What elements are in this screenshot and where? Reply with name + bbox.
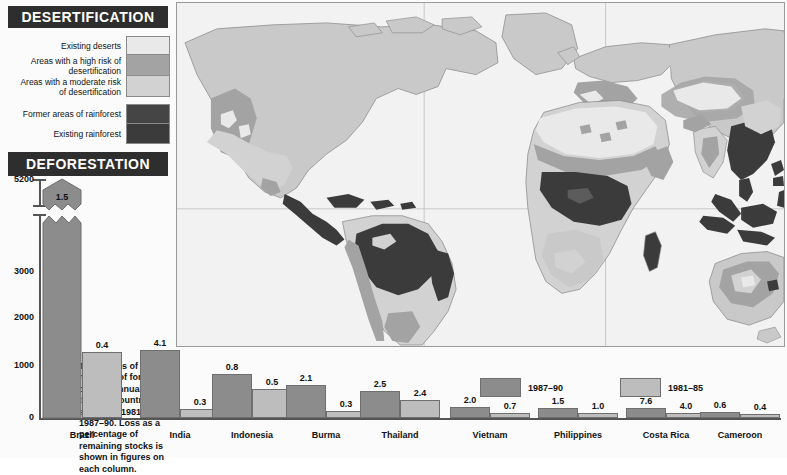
bar-philippines-1987-90 [538,408,578,418]
cat-label-cameroon: Cameroon [700,430,780,440]
legend-swatch-high-risk [126,55,170,76]
y-axis-upper [39,180,41,206]
bar-label-burma-1987-90: 2.1 [286,373,326,383]
y-tick-2000: 2000 [0,312,34,322]
y-tick-0: 0 [0,412,34,422]
bar-label-brazil-1981-85: 0.4 [82,340,122,350]
chart-legend-swatch-1981-85 [620,378,661,397]
chart-legend-label-1981-85: 1981–85 [668,383,703,393]
legend-label-existing-rainforest: Existing rainforest [16,129,126,139]
desertification-legend: Existing deserts Areas with a high risk … [4,36,170,144]
bar-label-cameroon-1981-85: 0.4 [740,402,780,412]
cat-label-brazil: Brazil [42,430,122,440]
bar-label-indonesia-1987-90: 0.8 [212,362,252,372]
deforestation-chart: 5200 3000 2000 1000 0 Thousands of hecta… [0,178,787,458]
bar-label-thailand-1987-90: 2.5 [360,379,400,389]
cat-label-burma: Burma [286,430,366,440]
bar-burma-1987-90 [286,385,326,418]
cat-label-indonesia: Indonesia [212,430,292,440]
bar-label-cameroon-1987-90: 0.6 [700,400,740,410]
bar-label-philippines-1987-90: 1.5 [538,396,578,406]
bar-indonesia-1987-90 [212,374,252,418]
bar-vietnam-1987-90 [450,407,490,418]
deforestation-title: DEFORESTATION [8,152,168,176]
y-tick-5200: 5200 [0,174,34,184]
bar-costa-rica-1987-90 [626,408,666,418]
legend-item-existing-deserts: Existing deserts [4,36,170,55]
cat-label-vietnam: Vietnam [450,430,530,440]
legend-swatch-moderate-risk [126,76,170,97]
legend-item-former-rainforest: Former areas of rainforest [4,104,170,124]
bar-india-1987-90 [140,350,180,418]
desertification-title: DESERTIFICATION [8,6,168,28]
chart-legend-swatch-1987-90 [480,378,521,397]
bar-cameroon-1981-85 [740,414,780,418]
legend-label-former-rainforest: Former areas of rainforest [16,109,126,119]
bar-label-thailand-1981-85: 2.4 [400,388,440,398]
bar-thailand-1987-90 [360,391,400,418]
cat-label-india: India [140,430,220,440]
chart-legend-label-1987-90: 1987–90 [528,383,563,393]
y-axis-lower [39,214,41,418]
legend-item-high-risk: Areas with a high risk of desertificatio… [4,55,170,76]
bar-brazil-1987-90-body [42,214,82,419]
legend-item-moderate-risk: Areas with a moderate risk of desertific… [4,76,170,97]
legend-swatch-existing-rainforest [126,124,170,144]
bar-label-brazil-1987-90: 1.5 [42,192,82,202]
bar-thailand-1981-85 [400,400,440,418]
bar-label-philippines-1981-85: 1.0 [578,401,618,411]
cat-label-thailand: Thailand [360,430,440,440]
bar-vietnam-1981-85 [490,413,530,418]
bar-brazil-1981-85 [82,352,122,418]
legend-label-existing-deserts: Existing deserts [16,41,126,51]
legend-swatch-existing-deserts [126,36,170,55]
y-tick-3000: 3000 [0,266,34,276]
legend-item-existing-rainforest: Existing rainforest [4,124,170,144]
bar-label-vietnam-1981-85: 0.7 [490,401,530,411]
chart-legend-1981-85: 1981–85 [620,378,703,397]
legend-label-high-risk: Areas with a high risk of desertificatio… [16,56,126,76]
bar-philippines-1981-85 [578,413,618,418]
y-tick-1000: 1000 [0,360,34,370]
legend-label-moderate-risk: Areas with a moderate risk of desertific… [16,77,126,97]
chart-legend-1987-90: 1987–90 [480,378,563,397]
bar-label-india-1987-90: 4.1 [140,338,180,348]
cat-label-philippines: Philippines [538,430,618,440]
bar-cameroon-1987-90 [700,412,740,418]
legend-swatch-former-rainforest [126,104,170,124]
cat-label-costa-rica: Costa Rica [626,430,706,440]
bar-label-costa-rica-1987-90: 7.6 [626,396,666,406]
